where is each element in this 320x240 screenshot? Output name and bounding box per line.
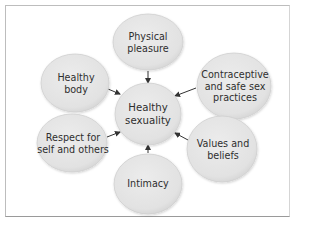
label-respect: Respect for self and others (37, 132, 109, 155)
label-intimacy: Intimacy (127, 178, 169, 190)
label-values-beliefs: Values and beliefs (197, 138, 249, 161)
arrow-respect (107, 132, 120, 137)
label-contraceptive: Contraceptive and safe sex practices (201, 69, 269, 104)
arrow-healthy-body (108, 89, 120, 94)
label-healthy-sexuality: Healthy sexuality (125, 102, 171, 127)
arrow-values (175, 133, 188, 140)
arrow-contraceptive (175, 88, 196, 96)
label-physical-pleasure: Physical pleasure (127, 31, 168, 54)
label-healthy-body: Healthy body (57, 72, 94, 95)
